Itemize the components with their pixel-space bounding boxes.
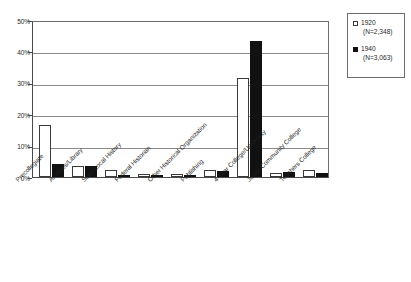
bar-1920[interactable] — [303, 170, 315, 178]
bar-chart-figure: 50% 40% 30% 20% 10% 0% — [0, 0, 411, 282]
bar-group — [204, 22, 230, 177]
legend-entry-1940: 1940 (N=3,063) — [353, 45, 404, 62]
legend-entry-1920: 1920 (N=2,348) — [353, 19, 404, 36]
y-axis: 50% 40% 30% 20% 10% 0% — [0, 21, 30, 178]
y-tick-label: 10% — [4, 143, 30, 150]
bar-1920[interactable] — [39, 125, 51, 177]
y-tick-label: 40% — [4, 49, 30, 56]
bar-1940[interactable] — [316, 173, 328, 177]
legend-swatch-1920-icon — [353, 21, 358, 26]
y-tick-label: 20% — [4, 112, 30, 119]
legend-label-1940: 1940 — [361, 45, 376, 53]
bar-1940[interactable] — [250, 41, 262, 177]
bar-group — [39, 22, 65, 177]
legend-swatch-1940-icon — [353, 47, 358, 52]
legend-sub-1920: (N=2,348) — [363, 28, 404, 36]
bar-1920[interactable] — [237, 78, 249, 177]
legend: 1920 (N=2,348) 1940 (N=3,063) — [347, 13, 405, 78]
y-tick-label: 50% — [4, 18, 30, 25]
y-tick-label: 30% — [4, 80, 30, 87]
legend-sub-1940: (N=3,063) — [363, 54, 404, 62]
x-axis: Precollegiate Archives/Library State/Loc… — [0, 178, 411, 282]
legend-label-1920: 1920 — [361, 19, 376, 27]
